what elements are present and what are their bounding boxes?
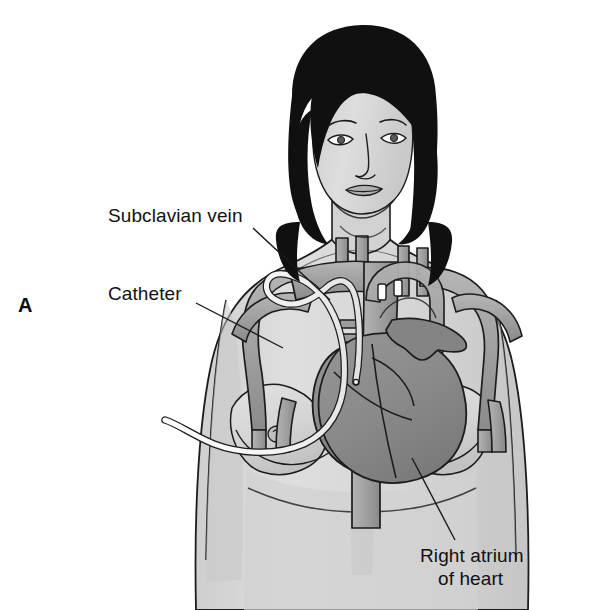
label-subclavian-vein: Subclavian vein xyxy=(108,205,243,226)
label-right-atrium-line1: Right atrium xyxy=(420,545,524,566)
aortic-branch-stub-b xyxy=(394,280,402,296)
axillary-vein-right-medial xyxy=(478,430,492,452)
illustration-canvas: Subclavian vein Catheter Right atrium of… xyxy=(0,0,590,610)
label-right-atrium-line2: of heart xyxy=(438,568,504,589)
aortic-branch-stub-a xyxy=(378,284,386,300)
panel-letter-a: A xyxy=(18,294,32,316)
catheter-tip xyxy=(353,379,358,384)
figure-root: Subclavian vein Catheter Right atrium of… xyxy=(0,0,590,610)
label-catheter: Catheter xyxy=(108,283,182,304)
iris-left xyxy=(337,136,344,143)
iris-right xyxy=(390,134,397,141)
